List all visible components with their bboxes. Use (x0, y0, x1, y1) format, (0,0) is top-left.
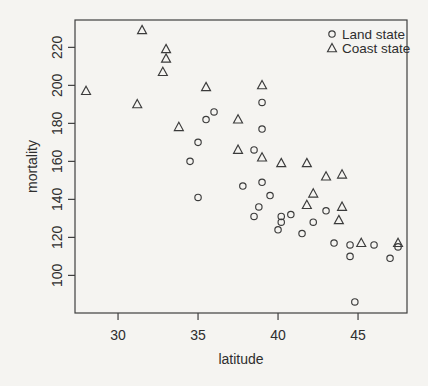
data-point-land (275, 227, 281, 233)
legend: Land stateCoast state (328, 27, 411, 56)
y-tick-label: 180 (49, 111, 65, 135)
data-point-land (267, 192, 273, 198)
plot-box (75, 20, 407, 313)
data-point-land (299, 230, 305, 236)
data-point-coast (277, 158, 286, 166)
y-tick-label: 160 (49, 149, 65, 173)
data-point-coast (133, 99, 142, 107)
data-point-land (259, 99, 265, 105)
legend-label: Coast state (342, 41, 410, 56)
data-point-coast (174, 122, 183, 130)
data-point-land (371, 242, 377, 248)
data-point-coast (162, 44, 171, 52)
data-point-coast (158, 67, 167, 75)
data-point-land (347, 242, 353, 248)
data-point-land (195, 139, 201, 145)
y-tick-label: 100 (49, 263, 65, 287)
legend-marker-circle (329, 31, 335, 37)
data-point-coast (302, 158, 311, 166)
data-point-land (310, 219, 316, 225)
data-point-land (352, 299, 358, 305)
x-tick-label: 30 (110, 327, 126, 343)
data-point-land (187, 158, 193, 164)
x-tick-label: 40 (270, 327, 286, 343)
data-point-land (347, 253, 353, 259)
data-point-land (256, 204, 262, 210)
data-point-coast (322, 172, 331, 180)
data-point-land (251, 213, 257, 219)
data-point-coast (202, 82, 211, 90)
data-point-land (251, 147, 257, 153)
data-point-coast (234, 115, 243, 123)
data-point-coast (338, 202, 347, 210)
data-point-coast (138, 25, 147, 33)
y-tick-label: 220 (49, 35, 65, 59)
data-point-coast (162, 54, 171, 62)
data-point-coast (82, 86, 91, 94)
series-triangle (82, 25, 403, 246)
data-point-land (203, 116, 209, 122)
legend-marker-triangle (328, 43, 337, 51)
y-tick-label: 120 (49, 225, 65, 249)
data-point-land (288, 211, 294, 217)
series-circle (187, 99, 401, 305)
x-tick-label: 45 (350, 327, 366, 343)
y-tick-label: 140 (49, 187, 65, 211)
data-point-coast (258, 153, 267, 161)
data-point-land (259, 126, 265, 132)
x-axis-title: latitude (218, 351, 263, 367)
data-point-land (240, 183, 246, 189)
data-point-land (211, 109, 217, 115)
data-point-land (195, 194, 201, 200)
scatter-plot-figure: 30354045100120140160180200220latitudemor… (0, 0, 428, 386)
data-point-coast (334, 215, 343, 223)
legend-label: Land state (342, 27, 405, 42)
data-point-land (331, 240, 337, 246)
data-point-coast (302, 200, 311, 208)
data-point-land (259, 179, 265, 185)
data-point-land (323, 208, 329, 214)
y-axis-title: mortality (24, 140, 40, 193)
data-point-land (387, 255, 393, 261)
x-tick-label: 35 (190, 327, 206, 343)
data-point-coast (357, 238, 366, 246)
y-tick-label: 200 (49, 73, 65, 97)
data-point-coast (258, 80, 267, 88)
data-point-coast (338, 170, 347, 178)
data-point-coast (309, 189, 318, 197)
scatter-plot: 30354045100120140160180200220latitudemor… (0, 0, 428, 386)
data-point-coast (234, 145, 243, 153)
